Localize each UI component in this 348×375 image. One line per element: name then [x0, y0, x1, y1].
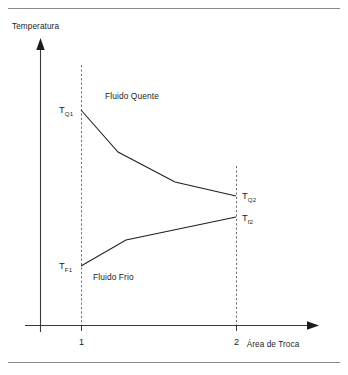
x-tick-label-1: 1	[79, 337, 84, 347]
svg-text:TQ1: TQ1	[59, 104, 74, 117]
label-cold-outlet-sub: f2	[248, 218, 254, 225]
y-axis-label: Temperatura	[12, 22, 59, 31]
svg-text:Tf2: Tf2	[242, 212, 254, 225]
svg-text:TQ2: TQ2	[242, 190, 257, 203]
x-tick-label-2: 2	[234, 337, 239, 347]
hot-fluid-curve	[81, 110, 236, 196]
hot-fluid-label: Fluido Quente	[105, 91, 159, 101]
label-hot-inlet-sub: Q1	[65, 110, 74, 117]
cold-fluid-label: Fluido Frio	[93, 272, 134, 282]
y-axis-arrowhead	[36, 38, 44, 50]
cold-fluid-curve	[81, 217, 236, 266]
x-axis-label: Área de Troca	[247, 339, 300, 349]
label-cold-inlet-sub: F1	[65, 266, 73, 273]
label-cold-inlet-temperature: TF1	[59, 260, 73, 273]
label-hot-outlet-sub: Q2	[248, 196, 257, 203]
temperature-profile-figure: Temperatura Área de Troca 1 2 Fluido Que…	[0, 0, 348, 375]
label-cold-outlet-temperature: Tf2	[242, 212, 254, 225]
svg-text:TF1: TF1	[59, 260, 73, 273]
label-hot-inlet-temperature: TQ1	[59, 104, 74, 117]
label-hot-outlet-temperature: TQ2	[242, 190, 257, 203]
x-axis-arrowhead	[307, 321, 319, 329]
